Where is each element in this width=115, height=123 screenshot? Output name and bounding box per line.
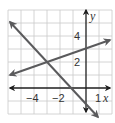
coordinate-graph: −4 −2 1 4 2 x y — [0, 0, 115, 123]
y-axis-label: y — [89, 9, 96, 23]
x-tick-1: 1 — [95, 92, 101, 104]
x-axis-label: x — [102, 91, 109, 105]
x-tick-neg4: −4 — [26, 92, 39, 104]
y-tick-4: 4 — [74, 30, 80, 42]
y-tick-2: 2 — [74, 56, 80, 68]
x-tick-neg2: −2 — [52, 92, 65, 104]
